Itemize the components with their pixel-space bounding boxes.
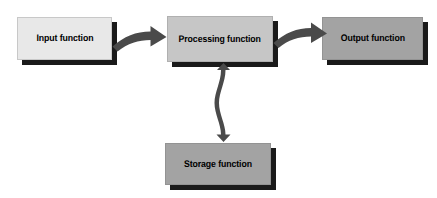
connector-processing-to-output-icon: [274, 23, 328, 49]
connector-input-to-processing-icon: [113, 26, 167, 52]
node-input-function[interactable]: Input function: [17, 17, 112, 60]
node-storage-function-label: Storage function: [184, 159, 252, 170]
node-output-function-label: Output function: [340, 33, 404, 44]
node-storage-function[interactable]: Storage function: [165, 143, 271, 185]
connector-processing-storage-icon: [215, 63, 231, 142]
node-processing-function[interactable]: Processing function: [167, 16, 273, 62]
node-input-function-label: Input function: [36, 33, 93, 44]
node-output-function[interactable]: Output function: [322, 17, 423, 60]
node-processing-function-label: Processing function: [179, 34, 261, 45]
process-flow-diagram: Input function Processing function Outpu…: [0, 0, 437, 198]
